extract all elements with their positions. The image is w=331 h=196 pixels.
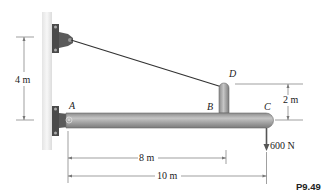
wall — [42, 12, 52, 150]
point-label-b: B — [207, 101, 213, 112]
post-bd — [219, 83, 229, 113]
beam-ac — [66, 113, 274, 128]
dimension-label-8m: 8 m — [139, 152, 155, 163]
dimension-label-2m: 2 m — [283, 94, 299, 105]
dimension-label-4m: 4 m — [15, 74, 31, 85]
cantilever-cable-diagram: 600 N A B C D 4 m 2 m 8 m — [0, 0, 331, 196]
dimension-label-10m: 10 m — [157, 170, 178, 181]
point-label-c: C — [264, 101, 271, 112]
figure-id-label: P9.49 — [296, 181, 321, 192]
point-label-d: D — [228, 68, 237, 79]
load-arrow — [264, 128, 270, 151]
point-label-a: A — [68, 100, 76, 111]
upper-bracket — [52, 24, 73, 53]
cable — [71, 40, 222, 87]
load-label: 600 N — [270, 140, 295, 151]
